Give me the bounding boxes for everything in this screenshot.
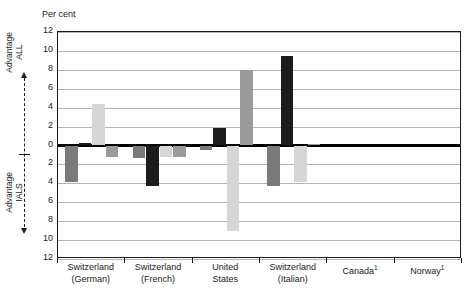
y-axis-tick-label: 10 <box>3 44 53 54</box>
category-label-line2: (German) <box>57 274 124 286</box>
bar <box>106 146 119 157</box>
x-axis-category-label: Switzerland(Italian) <box>259 262 326 285</box>
category-label-line1: United <box>192 262 259 274</box>
bar <box>213 128 226 146</box>
y-axis-tick-label: 6 <box>3 195 53 205</box>
category-label-line1: Canada1 <box>326 262 393 278</box>
y-axis-tick-label: 12 <box>3 252 53 262</box>
y-axis-tick-label: 4 <box>3 176 53 186</box>
x-axis-category-label: Canada1 <box>326 262 393 278</box>
bar <box>160 146 173 157</box>
y-axis-tick-label: 0 <box>3 139 53 149</box>
category-label-line2: States <box>192 274 259 286</box>
y-axis-unit-label: Per cent <box>42 9 76 19</box>
bar <box>227 146 240 231</box>
bar <box>173 146 186 157</box>
y-axis-tick-label: 12 <box>3 25 53 35</box>
bar <box>200 146 213 151</box>
y-axis-tick-label: 8 <box>3 63 53 73</box>
y-axis-tick-label: 2 <box>3 157 53 167</box>
footnote-marker: 1 <box>441 264 445 271</box>
bar <box>65 146 78 183</box>
x-axis-tick <box>461 258 462 263</box>
x-axis-category-labels: Switzerland(German)Switzerland(French)Un… <box>57 262 461 294</box>
bar <box>294 146 307 183</box>
x-axis-category-label: Switzerland(German) <box>57 262 124 285</box>
category-label-line2: (Italian) <box>259 274 326 286</box>
bar <box>240 70 253 146</box>
y-axis-tick-labels: 12108642024681012 <box>0 31 53 258</box>
bar <box>281 56 294 146</box>
category-label-line1: Switzerland <box>259 262 326 274</box>
bar <box>146 146 159 187</box>
x-axis-category-label: Norway1 <box>394 262 461 278</box>
x-axis-category-label: Switzerland(French) <box>124 262 191 285</box>
bar <box>133 146 146 158</box>
category-label-line1: Norway1 <box>394 262 461 278</box>
footnote-marker: 1 <box>374 264 378 271</box>
plot-area <box>57 31 461 258</box>
y-axis-tick-label: 10 <box>3 233 53 243</box>
y-axis-tick-label: 4 <box>3 101 53 111</box>
category-label-line1: Switzerland <box>57 262 124 274</box>
bar <box>308 144 321 145</box>
bar <box>79 143 92 146</box>
category-label-line1: Switzerland <box>124 262 191 274</box>
x-axis-category-label: UnitedStates <box>192 262 259 285</box>
category-label-line2: (French) <box>124 274 191 286</box>
y-axis-tick-label: 2 <box>3 120 53 130</box>
bar <box>92 104 105 146</box>
bars-layer <box>58 32 460 257</box>
y-axis-tick-label: 8 <box>3 214 53 224</box>
bar-chart: Advantage ALL Advantage IALS Per cent 12… <box>0 0 465 294</box>
bar <box>267 146 280 187</box>
y-axis-tick-label: 6 <box>3 82 53 92</box>
